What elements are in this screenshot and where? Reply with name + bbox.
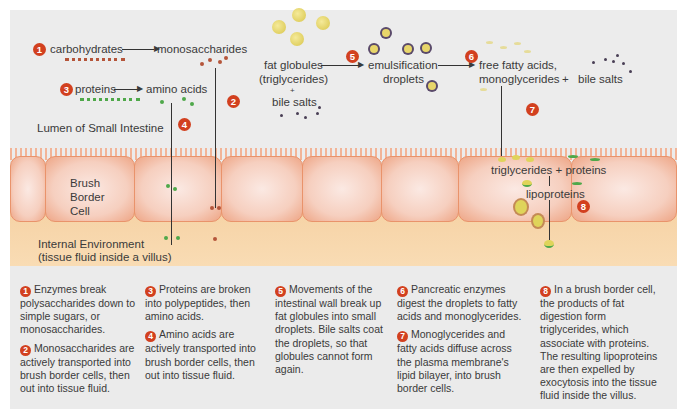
arrow-fat-to-emulsion bbox=[321, 65, 359, 66]
bile-salt-dot bbox=[629, 70, 632, 73]
fat-globule-icon bbox=[272, 20, 286, 34]
caption-text-2: Monosaccharides are actively transported… bbox=[20, 342, 134, 394]
lumen-label: Lumen of Small Intestine bbox=[37, 121, 164, 135]
caption-1: 1Enzymes break polysaccharides down to s… bbox=[20, 283, 138, 337]
amino-acids-label: amino acids bbox=[146, 82, 207, 96]
monosaccharides-label: monosaccharides bbox=[157, 42, 247, 56]
bile-salt-dot bbox=[280, 114, 283, 117]
droplets-label: droplets bbox=[383, 72, 424, 86]
triglycerides-proteins-label: triglycerides + proteins bbox=[491, 163, 606, 177]
monosaccharide-dot bbox=[210, 206, 214, 210]
fatty-acid-icon bbox=[480, 88, 487, 91]
bile-salt-dot bbox=[296, 112, 299, 115]
step-badge-3: 3 bbox=[60, 83, 73, 96]
cell bbox=[381, 156, 459, 222]
caption-4: 4Amino acids are actively transported in… bbox=[145, 328, 263, 382]
bile-salts-label-2: bile salts bbox=[578, 72, 623, 86]
cell bbox=[221, 156, 303, 222]
bile-salt-dot bbox=[622, 62, 625, 65]
caption-5: 5Movements of the intestinal wall break … bbox=[275, 283, 393, 376]
lipoproteins-label: lipoproteins bbox=[526, 187, 585, 201]
monosaccharide-dot bbox=[224, 56, 228, 60]
caption-text-8: In a brush border cell, the products of … bbox=[540, 283, 657, 401]
caption-7: 7Monoglycerides and fatty acids diffuse … bbox=[397, 328, 522, 395]
arrow-carb-to-mono bbox=[122, 49, 154, 50]
internal-env-label-1: Internal Environment bbox=[38, 237, 144, 251]
caption-text-1: Enzymes break polysaccharides down to si… bbox=[20, 283, 135, 335]
fatty-acid-icon bbox=[514, 42, 521, 45]
bile-salt-dot bbox=[316, 112, 319, 115]
step-badge-7: 7 bbox=[526, 103, 539, 116]
carbohydrate-chain-icon bbox=[65, 58, 125, 64]
arrow-to-lipoproteins bbox=[549, 176, 550, 186]
caption-badge-8: 8 bbox=[540, 286, 551, 297]
caption-text-3: Proteins are broken into polypeptides, t… bbox=[145, 283, 251, 322]
internal-env-label-2: (tissue fluid inside a villus) bbox=[38, 250, 172, 264]
bile-salts-label: bile salts bbox=[272, 95, 317, 109]
caption-8: 8In a brush border cell, the products of… bbox=[540, 283, 665, 403]
caption-column-3: 5Movements of the intestinal wall break … bbox=[275, 283, 393, 381]
emulsion-droplet-icon bbox=[370, 45, 378, 53]
caption-badge-3: 3 bbox=[145, 286, 156, 297]
fat-globule-icon bbox=[316, 16, 330, 30]
monosaccharide-dot bbox=[218, 60, 222, 64]
caption-3: 3Proteins are broken into polypeptides, … bbox=[145, 283, 263, 323]
triglyceride-icon bbox=[498, 157, 506, 162]
brush-label-1: Brush bbox=[70, 176, 100, 190]
bile-salt-dot bbox=[604, 58, 607, 61]
brush-label-3: Cell bbox=[70, 204, 90, 218]
plus-sign: + bbox=[562, 72, 569, 86]
emulsion-droplet-icon bbox=[404, 45, 412, 53]
arrowhead-icon: ▶ bbox=[358, 58, 364, 72]
carbohydrates-label: carbohydrates bbox=[50, 42, 123, 56]
caption-badge-5: 5 bbox=[275, 286, 286, 297]
arrow-mono-transport bbox=[215, 68, 216, 208]
lipoprotein-icon bbox=[522, 180, 532, 187]
free-fatty-acids-label: free fatty acids, bbox=[479, 58, 557, 72]
arrow-amino-transport bbox=[171, 103, 172, 245]
arrowhead-icon: ▶ bbox=[137, 82, 143, 96]
bile-salt-dot bbox=[304, 116, 307, 119]
vesicle-icon bbox=[515, 200, 527, 214]
caption-column-4: 6Pancreatic enzymes digest the droplets … bbox=[397, 283, 522, 400]
amino-acid-dot bbox=[160, 100, 164, 104]
amino-acid-dot bbox=[176, 236, 180, 240]
emulsification-label: emulsification bbox=[368, 58, 438, 72]
fatty-acid-icon bbox=[486, 41, 493, 44]
monoglycerides-label: monoglycerides bbox=[479, 72, 560, 86]
arrow-protein-to-amino bbox=[114, 89, 138, 90]
bile-salt-dot bbox=[592, 61, 595, 64]
cell bbox=[134, 156, 222, 222]
emulsion-droplet-icon bbox=[382, 29, 390, 37]
caption-column-5: 8In a brush border cell, the products of… bbox=[540, 283, 665, 408]
arrow-exocytosis bbox=[549, 200, 550, 240]
protein-icon bbox=[572, 182, 582, 185]
emulsion-droplet-icon bbox=[428, 82, 436, 90]
caption-text-7: Monoglycerides and fatty acids diffuse a… bbox=[397, 328, 512, 394]
caption-badge-6: 6 bbox=[397, 286, 408, 297]
bile-salt-dot bbox=[616, 54, 619, 57]
caption-badge-7: 7 bbox=[397, 331, 408, 342]
step-badge-2: 2 bbox=[227, 95, 240, 108]
caption-text-6: Pancreatic enzymes digest the droplets t… bbox=[397, 283, 521, 322]
triglyceride-icon bbox=[512, 155, 520, 160]
cell bbox=[302, 156, 382, 222]
caption-2: 2Monosaccharides are actively transporte… bbox=[20, 342, 138, 396]
fat-globule-icon bbox=[292, 8, 306, 22]
amino-acid-dot bbox=[190, 102, 194, 106]
bile-salt-dot bbox=[318, 106, 321, 109]
amino-acid-dot bbox=[182, 97, 186, 101]
caption-badge-2: 2 bbox=[20, 345, 31, 356]
caption-6: 6Pancreatic enzymes digest the droplets … bbox=[397, 283, 522, 323]
caption-column-1: 1Enzymes break polysaccharides down to s… bbox=[20, 283, 138, 400]
monosaccharide-dot bbox=[213, 237, 217, 241]
fat-globules-label: fat globules bbox=[264, 58, 323, 72]
arrow-ffa-diffuse bbox=[501, 86, 502, 156]
caption-badge-4: 4 bbox=[145, 331, 156, 342]
protein-icon bbox=[568, 155, 578, 158]
triglyceride-icon bbox=[526, 157, 534, 162]
cell bbox=[10, 156, 46, 222]
fat-globule-icon bbox=[290, 32, 304, 46]
emulsion-droplet-icon bbox=[422, 44, 430, 52]
brush-label-2: Border bbox=[70, 190, 105, 204]
